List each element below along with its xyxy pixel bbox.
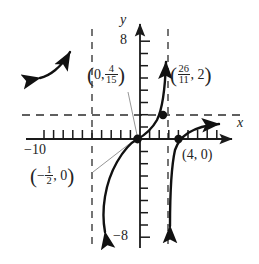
label-y-intercept-open-paren: ( xyxy=(87,67,94,83)
fraction-numerator: 4 xyxy=(105,64,118,75)
label-y-intercept-x: 0, xyxy=(94,68,105,82)
label-point-on-horizontal-asymptote: ( 26 11 , 2) xyxy=(170,64,212,87)
fraction-denominator: 15 xyxy=(105,74,118,86)
curve-middle-branch xyxy=(104,62,167,232)
curve-left-branch xyxy=(40,52,70,78)
fraction-numerator: 1 xyxy=(45,165,52,176)
label-point-open-paren: ( xyxy=(170,67,177,83)
fraction-denominator: 11 xyxy=(178,74,191,86)
leader-line-y-intercept xyxy=(128,92,137,135)
y-axis-label: y xyxy=(120,13,126,27)
label-x-intercept-left: (− 1 2 , 0) xyxy=(30,165,74,188)
x-tick-label-negative-10: −10 xyxy=(24,143,46,157)
label-x-intercept-left-y: , 0 xyxy=(53,169,67,183)
label-x-intercept-left-minus: − xyxy=(37,169,45,183)
x-axis-label: x xyxy=(237,116,243,130)
point-y-intercept xyxy=(133,135,142,144)
point-x-intercept-right xyxy=(174,135,182,143)
label-y-intercept-close-paren: ) xyxy=(118,67,125,83)
label-y-intercept-fraction: 4 15 xyxy=(105,64,118,87)
label-y-intercept: (0, 4 15 ) xyxy=(87,64,125,87)
fraction-numerator: 26 xyxy=(178,64,191,75)
graph-figure: y x 8 −8 −10 (0, 4 15 ) ( 26 11 , 2) (4,… xyxy=(0,0,259,264)
label-x-intercept-left-close-paren: ) xyxy=(67,168,74,184)
label-point-close-paren: ) xyxy=(205,67,212,83)
label-x-intercept-right: (4, 0) xyxy=(182,148,212,162)
fraction-denominator: 2 xyxy=(45,175,52,187)
graph-canvas xyxy=(0,0,259,264)
point-on-horizontal-asymptote xyxy=(159,111,167,119)
y-tick-label-negative-8: −8 xyxy=(113,229,128,243)
x-axis xyxy=(26,130,232,139)
label-point-y: , 2 xyxy=(191,68,205,82)
y-tick-label-8: 8 xyxy=(120,33,127,47)
label-x-intercept-left-fraction: 1 2 xyxy=(45,165,52,188)
label-point-fraction: 26 11 xyxy=(178,64,191,87)
label-x-intercept-left-open-paren: ( xyxy=(30,168,37,184)
